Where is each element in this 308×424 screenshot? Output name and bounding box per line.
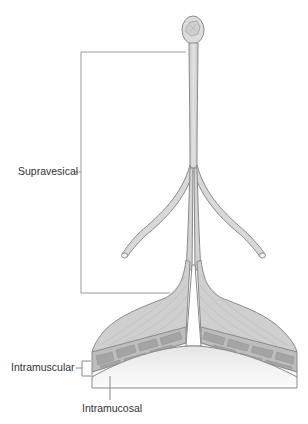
urachus-stalk [189, 43, 198, 168]
urachal-bulb [182, 16, 204, 44]
label-intramuscular: Intramuscular [11, 361, 75, 373]
umbilical-branches [122, 165, 266, 258]
supravesical-bracket [74, 52, 186, 293]
label-supravesical: Supravesical [18, 165, 78, 177]
intramuscular-bracket [76, 361, 91, 376]
label-intramucosal: Intramucosal [82, 402, 142, 414]
anatomical-diagram: Supravesical Intramuscular Intramucosal [0, 0, 308, 424]
